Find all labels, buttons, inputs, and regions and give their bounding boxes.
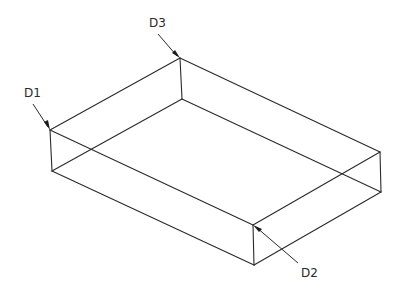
edge-top-back <box>180 58 380 152</box>
label-d2: D2 <box>301 266 318 280</box>
edge-top-left <box>50 58 180 130</box>
isometric-box-diagram: D1 D3 D2 <box>0 0 406 290</box>
edge-top-right <box>253 152 380 225</box>
leader-line-d2 <box>256 227 298 263</box>
callout-d1: D1 <box>24 86 50 130</box>
edge-bottom-back <box>182 99 381 192</box>
callout-d3: D3 <box>149 16 180 58</box>
box-wireframe <box>50 58 381 265</box>
edge-bottom-front <box>52 171 254 265</box>
edge-bottom-right <box>254 192 381 265</box>
edge-vertical-front-right <box>253 225 254 265</box>
edge-bottom-left <box>52 99 182 171</box>
label-d3: D3 <box>149 16 166 30</box>
edge-vertical-front-left <box>50 130 52 171</box>
edge-vertical-back-left <box>180 58 182 99</box>
edge-top-front <box>50 130 253 225</box>
edge-vertical-back-right <box>380 152 381 192</box>
label-d1: D1 <box>24 86 41 100</box>
